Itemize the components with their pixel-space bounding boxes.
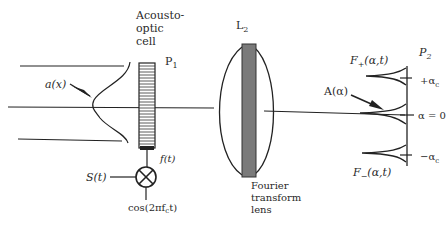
ax-label: a(x): [45, 78, 66, 91]
optical-axis-line: [8, 107, 214, 108]
fourier-label-1: Fourier: [251, 180, 289, 191]
cos-label: cos(2πfct): [128, 202, 177, 215]
plus-ac-label: +αc: [420, 75, 439, 89]
p2-label: P2: [418, 46, 432, 61]
mixer-icon: [136, 167, 156, 187]
optical-diagram: Acousto- optic cell P1 a(x) f(t) S(t) co…: [0, 0, 448, 226]
acousto-label-2: optic: [136, 22, 164, 35]
a-alpha-arrow-icon: [369, 100, 384, 110]
beam-bottom-line: [18, 139, 122, 141]
fourier-label-3: lens: [251, 204, 272, 215]
fplus-peak-curve: [366, 68, 406, 85]
acousto-label-3: cell: [136, 35, 156, 48]
a-alpha-label: A(α): [323, 85, 348, 98]
fminus-peak-curve: [362, 145, 406, 162]
ax-profile-curve: [93, 62, 130, 143]
l2-label: L2: [236, 19, 248, 34]
st-label: S(t): [86, 171, 107, 184]
fminus-label: F−(α,t): [352, 166, 391, 181]
acousto-label-1: Acousto-: [135, 9, 184, 22]
alpha0-label: α = 0: [418, 110, 446, 121]
ft-label: f(t): [159, 153, 176, 164]
acousto-optic-cell: [139, 63, 155, 150]
fourier-label-2: transform: [251, 192, 302, 203]
fplus-label: F+(α,t): [349, 54, 388, 69]
ax-arrow-shaft: [70, 84, 90, 96]
p1-label: P1: [165, 55, 178, 70]
minus-ac-label: −αc: [420, 151, 439, 165]
